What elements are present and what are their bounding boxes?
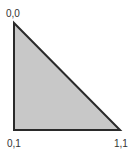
- triangle-shape: [14, 23, 120, 130]
- vertex-label-bottom-left: 0,1: [7, 139, 21, 149]
- vertex-label-top-left: 0,0: [6, 9, 20, 19]
- vertex-label-bottom-right: 1,1: [114, 139, 128, 149]
- triangle-diagram: [0, 0, 132, 150]
